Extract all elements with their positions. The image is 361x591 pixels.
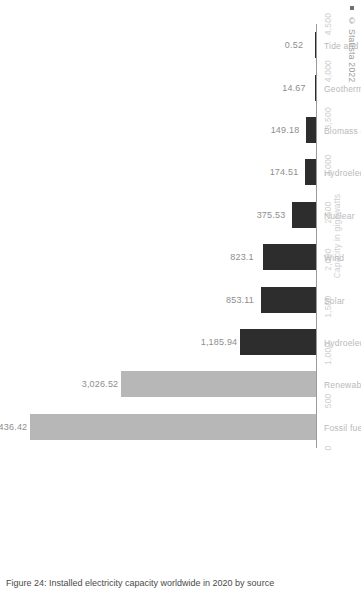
rotated-plot-area: 4,436.423,026.521,185.94853.11823.1375.5… [16,12,346,512]
bar-value-label: 3,026.52 [94,366,107,403]
bar-slot: 3,026.52 [26,371,316,397]
square-marker-icon [350,6,354,10]
bar[interactable] [30,414,316,440]
category-label: Nuclear [324,180,334,211]
bar-slot: 853.11 [26,287,316,313]
bar[interactable] [239,329,315,355]
bar-slot: 1,185.94 [26,329,316,355]
bar-value-label: 853.11 [235,286,248,314]
category-label: Wind [324,233,334,253]
bar-value-label: 149.18 [280,116,293,145]
bar-slot: 0.52 [26,32,316,58]
bar-value-label: 1,185.94 [213,324,226,361]
bar-series: 4,436.423,026.521,185.94853.11823.1375.5… [26,24,316,448]
category-label: Solar [324,275,334,296]
bar-slot: 149.18 [26,117,316,143]
bar-value-label: 375.53 [265,200,278,229]
bar-value-label: 14.67 [289,76,302,100]
bar-slot: 174.51 [26,159,316,185]
figure-caption: Figure 24: Installed electricity capacit… [0,577,361,591]
bar[interactable] [262,244,315,270]
statista-credit: © Statista 2022 [347,16,357,82]
chart-canvas: 4,436.423,026.521,185.94853.11823.1375.5… [0,0,361,591]
bar-slot: 823.1 [26,244,316,270]
bar[interactable] [120,371,315,397]
bar-slot: 14.67 [26,75,316,101]
bar[interactable] [304,159,315,185]
bar-value-label: 4,436.42 [4,408,17,445]
bar[interactable] [261,287,316,313]
bar-slot: 4,436.42 [26,414,316,440]
bar[interactable] [291,202,315,228]
figure-caption-text: Figure 24: Installed electricity capacit… [6,577,355,590]
bar-value-label: 174.51 [278,158,291,187]
category-label: Tide and wave [324,0,334,41]
bar[interactable] [306,117,316,143]
bar-slot: 375.53 [26,202,316,228]
axis-tick-label: 0 [323,446,333,451]
bar-value-label: 823.1 [236,245,249,269]
bar-value-label: 0.52 [289,36,302,54]
